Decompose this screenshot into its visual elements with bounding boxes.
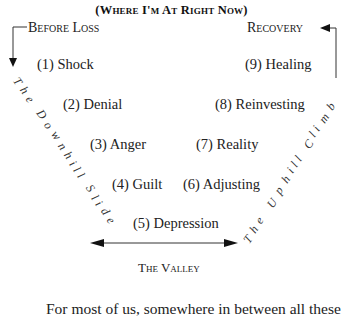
stage-healing: (9) Healing: [245, 56, 311, 73]
stage-shock: (1) Shock: [37, 56, 94, 73]
label-recovery: Recovery: [247, 20, 303, 36]
label-before-loss: Before Loss: [28, 20, 99, 36]
stage-depression: (5) Depression: [133, 215, 219, 232]
label-the-valley: The Valley: [138, 260, 200, 276]
stage-reinvesting: (8) Reinvesting: [215, 96, 305, 113]
stage-anger: (3) Anger: [90, 136, 146, 153]
stage-denial: (2) Denial: [63, 96, 122, 113]
stage-guilt: (4) Guilt: [112, 176, 162, 193]
stage-reality: (7) Reality: [196, 136, 258, 153]
stage-adjusting: (6) Adjusting: [183, 176, 260, 193]
body-paragraph: For most of us, somewhere in between all…: [46, 300, 341, 318]
